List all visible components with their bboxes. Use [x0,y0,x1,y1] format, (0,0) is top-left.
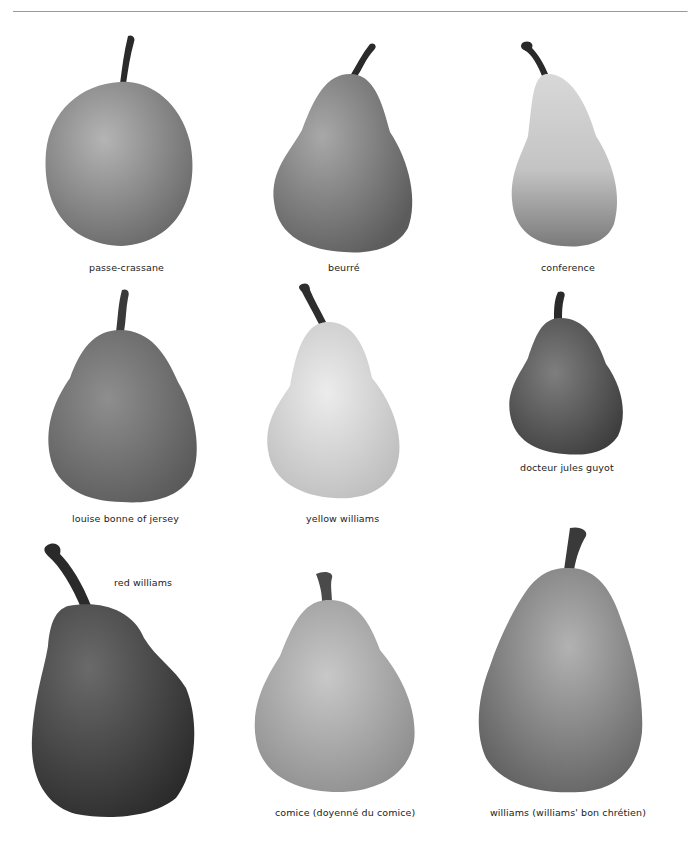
pear-image-louise-bonne-of-jersey [46,288,201,506]
pear-image-beurre [270,42,420,257]
pear-label-docteur-jules-guyot: docteur jules guyot [520,462,614,473]
pear-image-comice [252,570,422,798]
pear-label-beurre: beurré [328,262,360,273]
pear-image-yellow-williams [264,282,409,504]
pear-label-williams: williams (williams' bon chrétien) [490,807,646,818]
pear-image-williams [476,526,646,798]
pear-image-conference [510,40,625,250]
pear-label-louise-bonne-of-jersey: louise bonne of jersey [72,513,179,524]
top-rule-extension [13,11,688,12]
pear-image-passe-crassane [40,32,200,252]
pear-label-passe-crassane: passe-crassane [89,262,164,273]
pear-image-docteur-jules-guyot [506,290,631,460]
pear-label-conference: conference [541,262,595,273]
pear-label-yellow-williams: yellow williams [306,513,379,524]
pear-label-red-williams: red williams [114,577,172,588]
pear-label-comice: comice (doyenné du comice) [275,807,415,818]
